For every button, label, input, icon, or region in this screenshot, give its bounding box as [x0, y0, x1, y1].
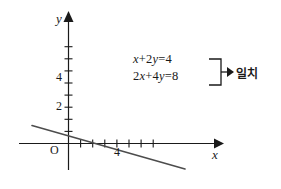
right-brace-icon [208, 57, 234, 87]
y-axis-arrowhead [64, 11, 74, 22]
coordinate-plane-graph [0, 0, 281, 189]
y-tick-label-2: 2 [56, 100, 62, 112]
diagram-canvas: y x O 4 2 4 x+2y=4 2x+4y=8 일치 [0, 0, 281, 189]
equation-first: x+2y=4 [133, 52, 178, 66]
origin-label: O [50, 144, 59, 156]
conclusion-annotation: 일치 [208, 57, 258, 87]
y-axis-label: y [56, 12, 62, 25]
equation-first-rhs: 4 [165, 52, 171, 66]
x-axis-label: x [212, 148, 218, 161]
x-tick-label-4: 4 [114, 146, 120, 158]
equation-group: x+2y=4 2x+4y=8 [133, 52, 178, 84]
equation-second-rhs: 8 [172, 69, 178, 83]
equation-second: 2x+4y=8 [133, 69, 178, 83]
equation-first-plus: + [139, 52, 146, 66]
result-label: 일치 [236, 64, 258, 81]
y-tick-label-4: 4 [56, 71, 62, 83]
equation-second-equals: = [165, 69, 172, 83]
